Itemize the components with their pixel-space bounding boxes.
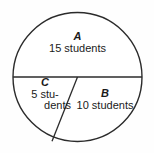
sector-a-count: 15 students bbox=[13, 43, 142, 54]
sector-label-c: C 5 stu- dents bbox=[16, 77, 74, 111]
sector-c-count-line-2: dents bbox=[16, 100, 74, 111]
sector-label-b: B 10 students bbox=[70, 88, 140, 111]
sector-c-letter: C bbox=[16, 77, 74, 88]
sector-label-a: A 15 students bbox=[13, 31, 142, 54]
pie-chart-diagram: A 15 students C 5 stu- dents B 10 studen… bbox=[0, 0, 154, 153]
sector-b-count: 10 students bbox=[70, 100, 140, 111]
sector-a-letter: A bbox=[13, 31, 142, 42]
sector-b-letter: B bbox=[70, 88, 140, 99]
